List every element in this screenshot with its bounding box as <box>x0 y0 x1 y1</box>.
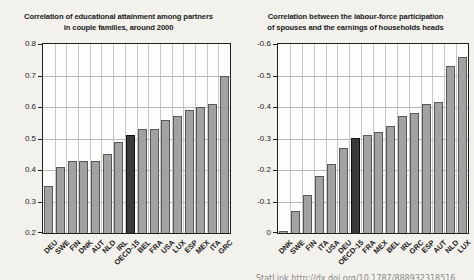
y-axis-tick <box>38 232 42 233</box>
y-axis-label: -0.3 <box>241 134 271 143</box>
y-axis-label: 0.4 <box>6 165 36 174</box>
y-axis-tick <box>273 202 277 203</box>
bar-LUX <box>458 57 467 233</box>
horizontal-gridline <box>43 76 230 77</box>
chart-title-line1: Correlation between the labour-force par… <box>241 12 470 23</box>
y-axis-label: 0 <box>241 228 271 237</box>
y-axis-tick <box>38 139 42 140</box>
chart-title-line1: Correlation of educational attainment am… <box>4 12 233 23</box>
y-axis-tick <box>38 76 42 77</box>
bar-LUX <box>173 116 182 233</box>
bar-NLD <box>103 154 112 233</box>
bar-BEL <box>138 129 147 233</box>
plot-area-1: -0.6-0.5-0.4-0.3-0.2-0.10DNKSWEFINITAUSA… <box>277 43 469 234</box>
bar-FIN <box>303 195 312 233</box>
y-axis-label: 0.8 <box>6 39 36 48</box>
bar-USA <box>161 120 170 233</box>
bar-ITA <box>208 104 217 233</box>
y-axis-label: 0.7 <box>6 71 36 80</box>
bar-DNK <box>79 161 88 233</box>
bar-DNK <box>279 231 288 233</box>
horizontal-gridline <box>278 76 468 77</box>
chart-title-line2: in couple families, around 2000 <box>4 23 233 34</box>
bar-FRA <box>363 135 372 233</box>
y-axis-tick <box>273 44 277 45</box>
y-axis-label: -0.2 <box>241 165 271 174</box>
bar-DEU <box>44 186 53 233</box>
bar-GRC <box>220 76 229 233</box>
chart-title: Correlation of educational attainment am… <box>4 12 233 33</box>
chart-title: Correlation between the labour-force par… <box>241 12 470 33</box>
chart-educational-attainment: Correlation of educational attainment am… <box>0 0 237 260</box>
bar-GRC <box>410 113 419 233</box>
chart-labour-force-participation: Correlation between the labour-force par… <box>237 0 474 260</box>
bar-ESP <box>185 110 194 233</box>
bar-MEX <box>196 107 205 233</box>
y-axis-tick <box>38 107 42 108</box>
bar-ESP <box>422 104 431 233</box>
y-axis-label: -0.5 <box>241 71 271 80</box>
y-axis-label: 0.5 <box>6 134 36 143</box>
y-axis-tick <box>273 139 277 140</box>
plot-area-0: 0.80.70.60.50.40.30.2DEUSWEFINDNKAUTNLDI… <box>42 43 231 234</box>
bar-IRL <box>114 142 123 233</box>
bar-SWE <box>56 167 65 233</box>
bar-NLD <box>446 66 455 233</box>
chart-title-line2: of spouses and the earnings of household… <box>241 23 470 34</box>
bar-IRL <box>398 116 407 233</box>
y-axis-label: 0.3 <box>6 197 36 206</box>
bar-ITA <box>315 176 324 233</box>
figure-canvas: { "page": { "background": "#f2f1ec", "fo… <box>0 0 474 280</box>
bar-MEX <box>374 132 383 233</box>
bar-OECD-15 <box>351 138 360 233</box>
y-axis-tick <box>273 170 277 171</box>
y-axis-label: 0.2 <box>6 228 36 237</box>
y-axis-tick <box>38 44 42 45</box>
bar-AUT <box>91 161 100 233</box>
y-axis-tick <box>38 170 42 171</box>
y-axis-label: -0.6 <box>241 39 271 48</box>
y-axis-label: -0.1 <box>241 197 271 206</box>
y-axis-label: 0.6 <box>6 102 36 111</box>
bar-USA <box>327 164 336 233</box>
bar-SWE <box>291 211 300 233</box>
y-axis-tick <box>273 76 277 77</box>
statlink-text[interactable]: StatLink http://dx.doi.org/10.1787/88893… <box>256 274 455 280</box>
y-axis-label: -0.4 <box>241 102 271 111</box>
bar-FRA <box>150 129 159 233</box>
y-axis-tick <box>273 107 277 108</box>
bar-OECD-15 <box>126 135 135 233</box>
bar-FIN <box>68 161 77 233</box>
bar-DEU <box>339 148 348 233</box>
bar-BEL <box>386 126 395 233</box>
bar-AUT <box>434 102 443 233</box>
y-axis-tick <box>273 232 277 233</box>
y-axis-tick <box>38 202 42 203</box>
